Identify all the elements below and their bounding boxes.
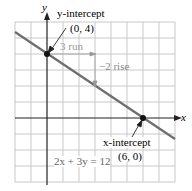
graph-figure: y x y-intercept (0, 4) 3 run −2 rise x-i… xyxy=(0,0,192,191)
equation-label: 2x + 3y = 12 xyxy=(54,156,110,167)
y-intercept-label: y-intercept xyxy=(57,8,105,19)
y-intercept-point-label: (0, 4) xyxy=(70,23,94,34)
x-intercept-point xyxy=(140,115,146,121)
run-label: 3 run xyxy=(60,41,83,52)
y-axis-label: y xyxy=(42,2,47,13)
x-intercept-point-label: (6, 0) xyxy=(118,151,142,162)
x-intercept-label: x-intercept xyxy=(103,137,151,148)
x-axis-label: x xyxy=(181,112,186,123)
y-intercept-point xyxy=(44,51,50,57)
y-axis-arrow-icon xyxy=(44,12,50,20)
rise-label: −2 rise xyxy=(99,61,129,72)
